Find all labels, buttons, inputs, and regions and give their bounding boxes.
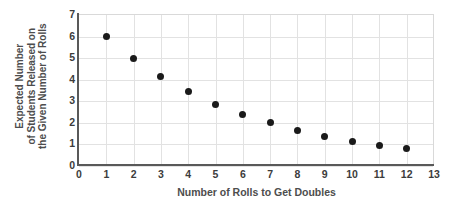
y-axis-title-line-3: the Given Number of Rolls: [37, 23, 49, 149]
data-point: [212, 101, 219, 108]
x-axis-title: Number of Rolls to Get Doubles: [79, 186, 434, 198]
x-axis-spine: [77, 164, 434, 166]
y-axis-title-line-1: Expected Number: [14, 23, 26, 149]
x-axis-tick-label: 2: [122, 168, 146, 180]
gridline-vertical: [407, 15, 408, 165]
x-axis-tick-label: 6: [231, 168, 255, 180]
x-axis-tick-label: 10: [340, 168, 364, 180]
plot-area: [79, 14, 434, 165]
gridline-vertical: [325, 15, 326, 165]
y-axis-tick-label: 3: [60, 95, 75, 105]
x-axis-tick-label: 1: [94, 168, 118, 180]
data-point: [349, 138, 356, 145]
data-point: [403, 145, 410, 152]
gridline-horizontal: [79, 166, 433, 167]
x-axis-tick-label: 0: [67, 168, 91, 180]
y-axis-title: Expected Number of Students Released on …: [0, 0, 62, 172]
gridline-vertical: [243, 15, 244, 165]
y-axis-tick-label: 5: [60, 52, 75, 62]
y-axis-spine: [77, 13, 79, 166]
x-axis-tick-label: 8: [285, 168, 309, 180]
x-axis-tick-label: 3: [149, 168, 173, 180]
data-point: [294, 127, 301, 134]
data-point: [185, 88, 192, 95]
gridline-vertical: [297, 15, 298, 165]
data-point: [239, 111, 246, 118]
gridline-vertical: [134, 15, 135, 165]
x-axis-tick-label: 13: [422, 168, 446, 180]
y-axis-tick-label: 6: [60, 31, 75, 41]
x-axis-tick-label: 5: [204, 168, 228, 180]
gridline-vertical: [270, 15, 271, 165]
data-point: [376, 142, 383, 149]
data-point: [267, 119, 274, 126]
x-axis-tick-label: 7: [258, 168, 282, 180]
data-point: [321, 133, 328, 140]
y-axis-tick-label: 7: [60, 9, 75, 19]
x-axis-tick-label: 11: [367, 168, 391, 180]
y-axis-tick-label: 2: [60, 117, 75, 127]
data-point: [103, 33, 110, 40]
y-axis-tick-label: 4: [60, 74, 75, 84]
x-axis-tick-labels: 012345678910111213: [0, 168, 454, 182]
y-axis-title-line-2: of Students Released on: [25, 23, 37, 149]
data-point: [130, 55, 137, 62]
gridline-vertical: [161, 15, 162, 165]
x-axis-tick-label: 9: [313, 168, 337, 180]
x-axis-tick-label: 12: [395, 168, 419, 180]
scatter-chart: Expected Number of Students Released on …: [0, 0, 454, 209]
gridline-vertical: [216, 15, 217, 165]
x-axis-tick-label: 4: [176, 168, 200, 180]
y-axis-tick-label: 1: [60, 138, 75, 148]
